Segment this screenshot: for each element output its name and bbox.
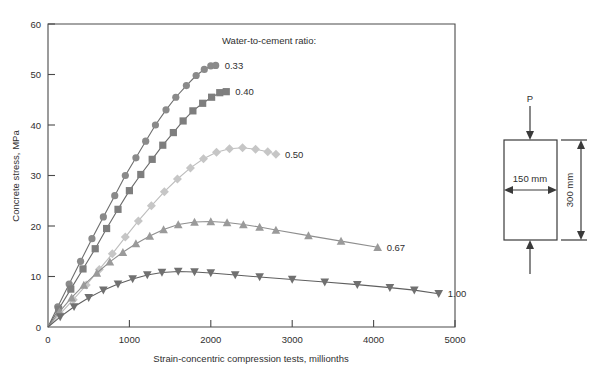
data-marker [251,145,260,154]
y-tick-label: 50 [30,69,41,80]
series-line [48,92,226,327]
x-tick-label: 0 [45,334,50,345]
series-1.00 [48,268,443,327]
data-marker [132,154,139,161]
data-marker [132,239,141,247]
series-0.50 [48,143,280,327]
data-marker [201,66,208,73]
x-tick-label: 1000 [119,334,140,345]
width-label: 150 mm [513,173,547,184]
specimen-diagram: P 150 mm 300 mm [504,93,587,274]
data-marker [172,94,179,101]
data-marker [271,150,280,159]
data-marker [199,100,206,107]
x-tick-label: 2000 [200,334,221,345]
data-marker [79,265,86,272]
data-marker [199,154,208,163]
figure-root: 010002000300040005000 0102030405060 0.33… [0,0,602,371]
x-tick-label: 4000 [363,334,384,345]
load-label: P [527,93,533,104]
series-label-0.50: 0.50 [285,149,304,160]
data-marker [212,148,221,157]
data-marker [193,72,200,79]
data-marker [170,129,177,136]
series-label-0.40: 0.40 [235,86,254,97]
y-tick-label: 0 [36,322,41,333]
data-marker [149,156,156,163]
width-dim-head-left [504,186,513,194]
data-marker [111,192,118,199]
data-marker [159,142,166,149]
data-marker [216,89,223,96]
legend-title: Water-to-cement ratio: [222,35,316,46]
y-axis-ticks: 0102030405060 [30,19,55,333]
y-tick-label: 60 [30,19,41,30]
x-axis-ticks: 010002000300040005000 [45,320,465,345]
plot-border [48,24,455,327]
data-marker [106,258,115,266]
data-marker [84,294,93,302]
data-marker [92,245,99,252]
height-dim-head-bottom [577,231,585,240]
data-marker [114,280,123,288]
data-marker [122,172,129,179]
series-label-0.67: 0.67 [387,242,406,253]
series-label-1.00: 1.00 [448,288,467,299]
series-end-labels: 0.330.400.500.671.00 [225,60,467,299]
data-marker [189,107,196,114]
data-marker [142,138,149,145]
data-marker [137,171,144,178]
series-layer [48,62,443,327]
data-marker [119,248,128,256]
series-line [48,148,276,327]
data-marker [67,286,74,293]
series-line [48,271,439,327]
data-marker [162,106,169,113]
data-marker [77,258,84,265]
data-marker [88,235,95,242]
height-label: 300 mm [564,173,575,207]
width-dim-head-right [548,186,557,194]
data-marker [263,147,272,156]
data-marker [183,82,190,89]
concrete-stress-strain-figure: 010002000300040005000 0102030405060 0.33… [0,0,602,371]
x-tick-label: 3000 [282,334,303,345]
data-marker [180,117,187,124]
data-marker [114,206,121,213]
data-marker [99,286,108,294]
data-marker [145,232,154,240]
data-marker [434,290,443,298]
x-axis-title: Strain-concentric compression tests, mil… [153,353,349,364]
load-arrow-bottom-head [526,240,534,249]
data-marker [159,225,168,233]
data-marker [100,213,107,220]
x-tick-label: 5000 [444,334,465,345]
y-tick-label: 20 [30,221,41,232]
data-marker [208,94,215,101]
data-marker [126,187,133,194]
data-marker [128,275,137,283]
y-axis-title: Concrete stress, MPa [10,130,21,222]
data-marker [223,88,230,95]
y-tick-label: 40 [30,120,41,131]
data-marker [225,144,234,153]
plot-frame [48,24,455,327]
data-marker [212,62,219,69]
load-arrow-top-head [526,131,534,140]
series-0.40 [48,88,230,327]
y-tick-label: 10 [30,271,41,282]
height-dim-head-top [577,140,585,149]
data-marker [103,225,110,232]
series-label-0.33: 0.33 [225,60,244,71]
data-marker [152,121,159,128]
series-0.67 [48,217,382,327]
data-marker [238,143,247,152]
data-marker [70,303,79,311]
y-tick-label: 30 [30,170,41,181]
